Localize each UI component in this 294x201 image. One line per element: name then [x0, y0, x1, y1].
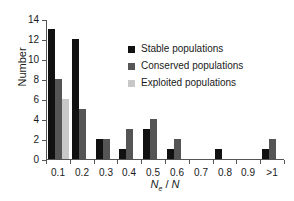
legend-item-label: Conserved populations [141, 60, 243, 72]
y-axis-tick-label: 2 [33, 133, 39, 146]
bar [119, 149, 126, 159]
y-axis-tick-mark [42, 100, 46, 101]
bar [215, 149, 222, 159]
y-axis-tick-mark [42, 60, 46, 61]
y-axis-tick-mark [42, 140, 46, 141]
y-axis-tick-label: 10 [28, 53, 39, 66]
bar [126, 129, 133, 159]
y-axis-tick: 10 [4, 60, 46, 61]
x-axis-tick-mark [117, 160, 118, 164]
bar [79, 109, 86, 159]
y-axis-tick-mark [42, 20, 46, 21]
legend-item-label: Stable populations [141, 43, 223, 55]
chart-legend: Stable populationsConserved populationsE… [128, 42, 288, 93]
y-axis-tick-label: 4 [33, 113, 39, 126]
bar [72, 39, 79, 159]
x-axis-tick-mark [236, 160, 237, 164]
legend-item: Exploited populations [128, 76, 288, 90]
legend-swatch-icon [128, 63, 135, 70]
y-axis-tick-mark [42, 80, 46, 81]
bar [62, 99, 69, 159]
bar [167, 149, 174, 159]
legend-item: Stable populations [128, 42, 288, 56]
x-axis-title-denominator: N [172, 178, 180, 190]
y-axis-tick: 0 [4, 160, 46, 161]
bar [174, 139, 181, 159]
y-axis-title: Number [15, 17, 29, 117]
legend-item: Conserved populations [128, 59, 288, 73]
x-axis-title: Ne / N [46, 178, 284, 192]
y-axis-tick-label: 8 [33, 73, 39, 86]
x-axis-tick-mark [189, 160, 190, 164]
x-axis-tick-mark [260, 160, 261, 164]
y-axis-tick: 6 [4, 100, 46, 101]
x-axis-tick-mark [284, 160, 285, 164]
bar [262, 149, 269, 159]
y-axis-tick-label: 6 [33, 93, 39, 106]
bar [55, 79, 62, 159]
y-axis-line [46, 20, 47, 160]
y-axis-tick: 8 [4, 80, 46, 81]
x-axis-tick-mark [46, 160, 47, 164]
bar [150, 119, 157, 159]
y-axis-tick: 4 [4, 120, 46, 121]
x-axis-tick-mark [213, 160, 214, 164]
y-axis-tick-mark [42, 40, 46, 41]
x-axis-tick-mark [141, 160, 142, 164]
y-axis-tick-label: 12 [28, 33, 39, 46]
y-axis-tick-mark [42, 120, 46, 121]
y-axis-tick: 12 [4, 40, 46, 41]
x-axis-tick-mark [165, 160, 166, 164]
bar [143, 129, 150, 159]
x-axis-tick-mark [94, 160, 95, 164]
bar [103, 139, 110, 159]
x-axis-title-separator: / [162, 178, 171, 190]
y-axis-tick-label: 14 [28, 13, 39, 26]
legend-item-label: Exploited populations [141, 77, 236, 89]
legend-swatch-icon [128, 46, 135, 53]
y-axis-tick-label: 0 [33, 153, 39, 166]
y-axis-tick: 14 [4, 20, 46, 21]
bar [48, 29, 55, 159]
bar [269, 139, 276, 159]
bar-chart-figure: Number 02468101214 0.10.20.30.40.50.60.7… [0, 0, 294, 201]
y-axis-tick: 2 [4, 140, 46, 141]
x-axis-tick-mark [70, 160, 71, 164]
legend-swatch-icon [128, 80, 135, 87]
bar [96, 139, 103, 159]
